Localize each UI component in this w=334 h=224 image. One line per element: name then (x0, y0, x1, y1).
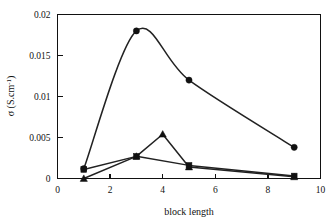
data-point-series-low-x9 (291, 173, 297, 179)
data-point-series-low-x1 (81, 167, 87, 173)
y-axis-label-close: ) (5, 76, 17, 79)
data-series-group (80, 28, 298, 182)
line-chart: 0246810 00.0050.010.0150.02 block length… (0, 0, 334, 224)
y-tick-label-0.015: 0.015 (29, 51, 51, 61)
y-tick-label-0.02: 0.02 (34, 10, 51, 20)
y-tick-label-0.005: 0.005 (29, 133, 51, 143)
x-axis-label: block length (164, 206, 214, 217)
y-axis-label-unit: (S.cm (5, 85, 17, 111)
x-tick-label-6: 6 (213, 185, 218, 195)
plot-frame (58, 15, 321, 179)
y-axis-tick-labels: 00.0050.010.0150.02 (29, 10, 51, 184)
x-tick-label-2: 2 (108, 185, 113, 195)
chart-figure: 0246810 00.0050.010.0150.02 block length… (0, 0, 334, 224)
data-point-series-high-x5 (186, 77, 192, 83)
series-series-high (81, 28, 298, 172)
data-point-series-high-x3 (133, 28, 139, 34)
data-point-series-low-x3 (134, 153, 140, 159)
series-line-series-mid (84, 134, 294, 178)
x-tick-label-8: 8 (266, 185, 271, 195)
series-line-series-high (84, 28, 294, 168)
y-tick-label-0.01: 0.01 (34, 92, 51, 102)
x-tick-label-10: 10 (316, 185, 326, 195)
data-point-series-low-x5 (186, 162, 192, 168)
y-axis-ticks (58, 15, 63, 179)
y-axis-label: σ (S.cm-1) (5, 76, 18, 117)
data-point-series-mid-x4 (159, 131, 166, 137)
data-point-series-high-x9 (291, 144, 297, 150)
x-tick-label-4: 4 (160, 185, 165, 195)
x-tick-label-0: 0 (55, 185, 60, 195)
plot-area-border (58, 15, 321, 179)
y-tick-label-0: 0 (46, 174, 51, 184)
x-axis-tick-labels: 0246810 (55, 185, 325, 195)
